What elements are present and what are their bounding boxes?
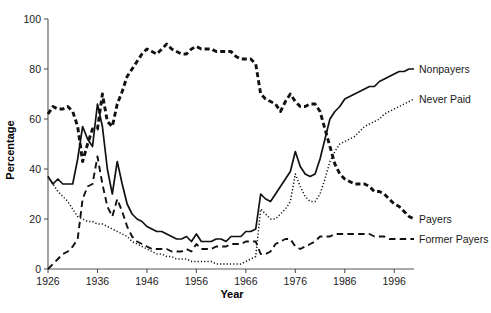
series-inline-labels: NonpayersNever PaidPayersFormer Payers: [419, 63, 488, 245]
x-tick-label: 1966: [234, 275, 258, 287]
y-tick-label: 40: [29, 163, 41, 175]
y-axis-title: Percentage: [4, 120, 16, 179]
x-tick-label: 1986: [333, 275, 357, 287]
y-tick-label: 20: [29, 213, 41, 225]
series-label-nonpayers: Nonpayers: [419, 63, 470, 75]
x-tick-label: 1976: [284, 275, 308, 287]
x-tick-label: 1926: [36, 275, 60, 287]
series-label-never-paid: Never Paid: [419, 93, 471, 105]
y-axis: 020406080100: [23, 13, 48, 275]
x-tick-label: 1946: [135, 275, 159, 287]
series-label-payers: Payers: [419, 213, 452, 225]
y-tick-label: 80: [29, 63, 41, 75]
series-line-former-payers: [48, 157, 414, 270]
y-tick-label: 100: [23, 13, 41, 25]
y-tick-label: 0: [35, 263, 41, 275]
y-tick-label: 60: [29, 113, 41, 125]
x-tick-label: 1936: [86, 275, 110, 287]
x-tick-label: 1996: [383, 275, 407, 287]
x-tick-label: 1956: [185, 275, 209, 287]
chart-figure: 020406080100 192619361946195619661976198…: [0, 0, 491, 313]
series-label-former-payers: Former Payers: [419, 233, 488, 245]
series-lines: [48, 44, 414, 269]
x-axis-title: Year: [220, 288, 244, 300]
x-axis: 19261936194619561966197619861996: [36, 269, 414, 287]
line-chart-svg: 020406080100 192619361946195619661976198…: [0, 0, 491, 313]
